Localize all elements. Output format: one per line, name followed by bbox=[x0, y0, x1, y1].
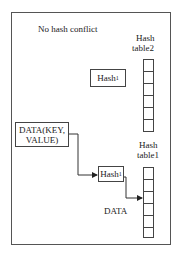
arrow-data-to-hash bbox=[69, 134, 97, 175]
arrow-hash-to-table1 bbox=[124, 177, 142, 198]
connector-arrows bbox=[0, 0, 183, 256]
